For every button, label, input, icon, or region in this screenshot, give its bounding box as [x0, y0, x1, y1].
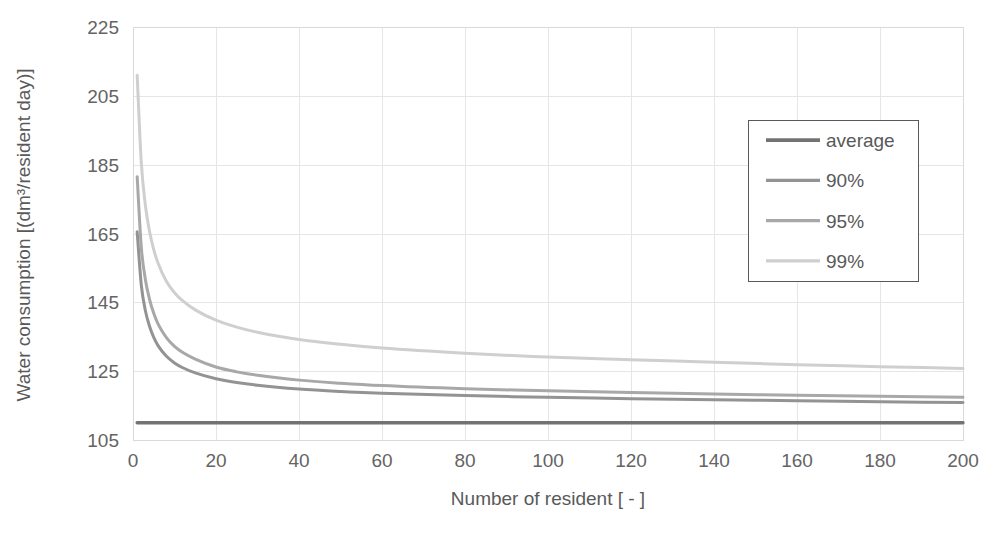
x-tick-label: 80 — [454, 450, 475, 471]
x-tick-label: 60 — [371, 450, 392, 471]
x-tick-label: 20 — [205, 450, 226, 471]
y-tick-label: 225 — [87, 17, 119, 38]
chart-legend: average90%95%99% — [749, 121, 919, 282]
y-tick-label: 145 — [87, 292, 119, 313]
x-tick-label: 160 — [781, 450, 813, 471]
y-axis-title: Water consumption [(dm³/resident day)] — [13, 69, 34, 402]
y-tick-label: 165 — [87, 224, 119, 245]
legend-label-average: average — [826, 130, 895, 151]
y-tick-label: 185 — [87, 155, 119, 176]
x-tick-label: 100 — [532, 450, 564, 471]
legend-label-90pct: 90% — [826, 170, 864, 191]
y-tick-label: 205 — [87, 86, 119, 107]
x-tick-label: 120 — [615, 450, 647, 471]
x-tick-label: 40 — [288, 450, 309, 471]
x-tick-label: 180 — [864, 450, 896, 471]
legend-label-99pct: 99% — [826, 251, 864, 272]
water-consumption-chart: 105125145165185205225 020406080100120140… — [0, 0, 1004, 540]
legend-label-95pct: 95% — [826, 211, 864, 232]
y-tick-label: 105 — [87, 430, 119, 451]
x-tick-label: 200 — [947, 450, 979, 471]
y-tick-label: 125 — [87, 361, 119, 382]
x-tick-label: 140 — [698, 450, 730, 471]
x-tick-label: 0 — [128, 450, 139, 471]
x-axis-title: Number of resident [ - ] — [451, 488, 645, 509]
